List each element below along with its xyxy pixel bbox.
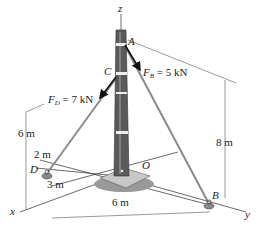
label-O: O xyxy=(142,159,150,171)
dim-label-6m-height: 6 m xyxy=(18,127,35,139)
band-C xyxy=(116,72,127,75)
cable-CD xyxy=(48,77,117,172)
label-z: z xyxy=(117,2,123,14)
pole-body xyxy=(114,30,129,176)
force-FD-arrow xyxy=(100,77,116,98)
pole xyxy=(114,30,129,176)
dim-label-8m: 8 m xyxy=(216,136,233,148)
label-C: C xyxy=(104,65,112,77)
dim-6m-top xyxy=(26,104,44,112)
pole-highlight xyxy=(119,32,121,174)
label-FB: FB = 5 kN xyxy=(142,66,187,80)
dim-6m-y xyxy=(52,212,210,218)
pole-cable-diagram: z x y A C D B O FB = 5 kN FD = 7 kN 8 m … xyxy=(0,0,262,234)
label-D: D xyxy=(29,163,38,175)
dim-label-6m-y: 6 m xyxy=(112,196,129,208)
label-FD: FD = 7 kN xyxy=(47,93,93,107)
label-y: y xyxy=(244,208,250,220)
diagram-svg: z x y A C D B O FB = 5 kN FD = 7 kN 8 m … xyxy=(0,0,262,234)
band-low xyxy=(116,131,128,134)
dim-label-2m: 2 m xyxy=(34,148,51,160)
label-A: A xyxy=(127,35,135,47)
band-mid xyxy=(116,92,127,94)
label-B: B xyxy=(212,189,219,201)
dim-label-3m: 3 m xyxy=(47,178,64,190)
label-x: x xyxy=(9,205,15,217)
force-FB-arrow xyxy=(125,45,140,70)
point-O-dot xyxy=(121,170,124,173)
